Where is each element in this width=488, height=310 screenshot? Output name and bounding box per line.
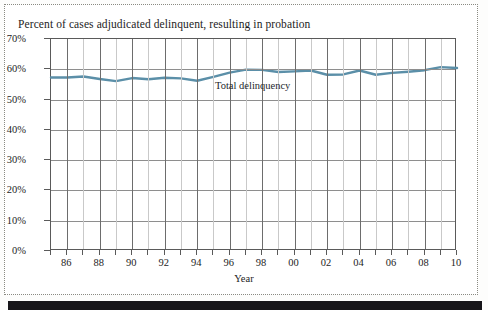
y-gridline	[51, 100, 455, 101]
x-gridline	[278, 39, 279, 249]
x-gridline	[262, 39, 263, 249]
x-axis-tick	[375, 250, 376, 255]
x-axis-tick	[99, 250, 100, 255]
y-gridline	[51, 190, 455, 191]
x-axis-tick	[229, 250, 230, 255]
x-gridline	[132, 39, 133, 249]
x-axis-tick	[115, 250, 116, 255]
y-axis-tick	[44, 159, 50, 160]
x-axis-label: 98	[256, 257, 267, 268]
y-axis-tick	[44, 129, 50, 130]
y-axis-tick	[44, 220, 50, 221]
x-gridline	[376, 39, 377, 249]
y-axis-label: 0%	[12, 245, 26, 256]
y-gridline	[51, 69, 455, 70]
y-axis-tick	[44, 38, 50, 39]
x-gridline	[83, 39, 84, 249]
x-axis-label: 96	[223, 257, 234, 268]
x-axis-label: 04	[353, 257, 364, 268]
x-gridline	[116, 39, 117, 249]
x-gridline	[148, 39, 149, 249]
x-gridline	[213, 39, 214, 249]
x-axis-tick	[164, 250, 165, 255]
x-axis-label: 08	[418, 257, 429, 268]
x-axis-title: Year	[0, 273, 488, 284]
x-gridline	[360, 39, 361, 249]
x-axis-label: 00	[288, 257, 299, 268]
x-gridline	[327, 39, 328, 249]
x-axis-tick	[326, 250, 327, 255]
x-gridline	[441, 39, 442, 249]
x-gridline	[246, 39, 247, 249]
x-axis-label: 94	[191, 257, 202, 268]
x-axis-label: 06	[386, 257, 397, 268]
x-axis-tick	[261, 250, 262, 255]
y-axis-tick	[44, 99, 50, 100]
y-axis-label: 70%	[7, 33, 26, 44]
x-gridline	[100, 39, 101, 249]
x-axis-label: 10	[451, 257, 462, 268]
y-axis-label: 20%	[7, 184, 26, 195]
y-gridline	[51, 160, 455, 161]
x-gridline	[67, 39, 68, 249]
y-axis-label: 60%	[7, 63, 26, 74]
x-axis-tick	[50, 250, 51, 255]
x-gridline	[230, 39, 231, 249]
x-axis-tick	[391, 250, 392, 255]
x-gridline	[181, 39, 182, 249]
x-axis-tick	[82, 250, 83, 255]
x-axis-label: 88	[93, 257, 104, 268]
x-axis-tick	[196, 250, 197, 255]
y-axis-tick	[44, 189, 50, 190]
x-gridline	[197, 39, 198, 249]
y-axis-label: 10%	[7, 214, 26, 225]
chart-page: Percent of cases adjudicated delinquent,…	[0, 0, 488, 310]
x-axis-tick	[245, 250, 246, 255]
x-gridline	[165, 39, 166, 249]
x-axis-tick	[456, 250, 457, 255]
x-gridline	[408, 39, 409, 249]
x-axis-tick	[440, 250, 441, 255]
x-axis-tick	[424, 250, 425, 255]
x-axis-tick	[180, 250, 181, 255]
y-gridline	[51, 221, 455, 222]
x-axis-tick	[66, 250, 67, 255]
x-axis-tick	[294, 250, 295, 255]
x-gridline	[343, 39, 344, 249]
x-gridline	[425, 39, 426, 249]
y-gridline	[51, 130, 455, 131]
y-axis-tick	[44, 68, 50, 69]
bottom-band	[8, 301, 482, 310]
x-axis-tick	[310, 250, 311, 255]
x-gridline	[392, 39, 393, 249]
chart-title: Percent of cases adjudicated delinquent,…	[18, 18, 310, 30]
plot-area	[50, 38, 456, 250]
y-axis-label: 50%	[7, 93, 26, 104]
x-axis-label: 90	[126, 257, 137, 268]
series-annotation-label: Total delinquency	[215, 80, 290, 91]
x-gridline	[311, 39, 312, 249]
series-line-total-delinquency	[51, 39, 457, 251]
x-axis-label: 86	[61, 257, 72, 268]
x-axis-tick	[342, 250, 343, 255]
x-axis-tick	[147, 250, 148, 255]
y-axis-label: 40%	[7, 123, 26, 134]
x-axis-tick	[407, 250, 408, 255]
x-axis-label: 02	[321, 257, 332, 268]
x-axis-tick	[131, 250, 132, 255]
y-axis-label: 30%	[7, 154, 26, 165]
x-gridline	[295, 39, 296, 249]
x-axis-tick	[359, 250, 360, 255]
x-axis-tick	[277, 250, 278, 255]
x-axis-tick	[212, 250, 213, 255]
x-axis-label: 92	[158, 257, 169, 268]
